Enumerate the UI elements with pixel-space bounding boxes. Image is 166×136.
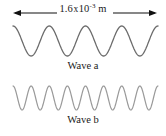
wave-a-curve xyxy=(0,22,166,62)
dimension-base: 10 xyxy=(79,3,90,14)
wave-b-label: Wave b xyxy=(0,114,166,125)
wave-b-curve xyxy=(0,82,166,116)
dimension-unit: m xyxy=(98,3,106,14)
wave-a-label: Wave a xyxy=(0,60,166,71)
dimension-value: 1.6 xyxy=(59,3,72,14)
dimension-label: 1.6x10-3 m xyxy=(0,2,166,16)
wave-comparison-figure: 1.6x10-3 m Wave a Wave b xyxy=(0,0,166,136)
dimension-exponent: -3 xyxy=(89,2,95,10)
